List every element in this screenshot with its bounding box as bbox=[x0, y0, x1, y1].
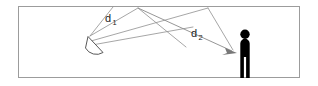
label-d1-subscript: 1 bbox=[113, 18, 117, 27]
acoustic-reflection-diagram: d 1 d 2 bbox=[0, 0, 318, 86]
label-d1-base: d bbox=[105, 12, 111, 24]
listener-head bbox=[240, 30, 249, 39]
label-d2-base: d bbox=[191, 27, 197, 39]
label-d2-subscript: 2 bbox=[199, 33, 203, 42]
diagram-canvas: d 1 d 2 bbox=[0, 0, 318, 86]
